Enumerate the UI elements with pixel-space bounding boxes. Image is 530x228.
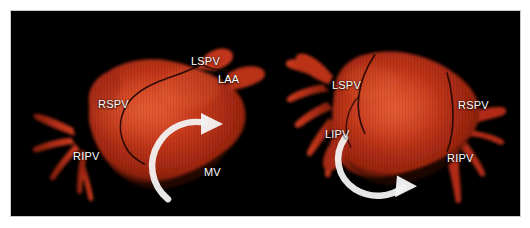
panel-left-atrium-posterior: LSPV LIPV RSPV RIPV (267, 11, 521, 216)
left-atrium-3d-render (11, 11, 267, 216)
panel-left-atrium-anterior: LSPV LAA RSPV RIPV MV (11, 11, 267, 216)
left-atrium-3d-render-posterior (267, 11, 521, 216)
medical-image-frame: LSPV LAA RSPV RIPV MV (10, 10, 521, 217)
figure-root: LSPV LAA RSPV RIPV MV (0, 0, 530, 228)
